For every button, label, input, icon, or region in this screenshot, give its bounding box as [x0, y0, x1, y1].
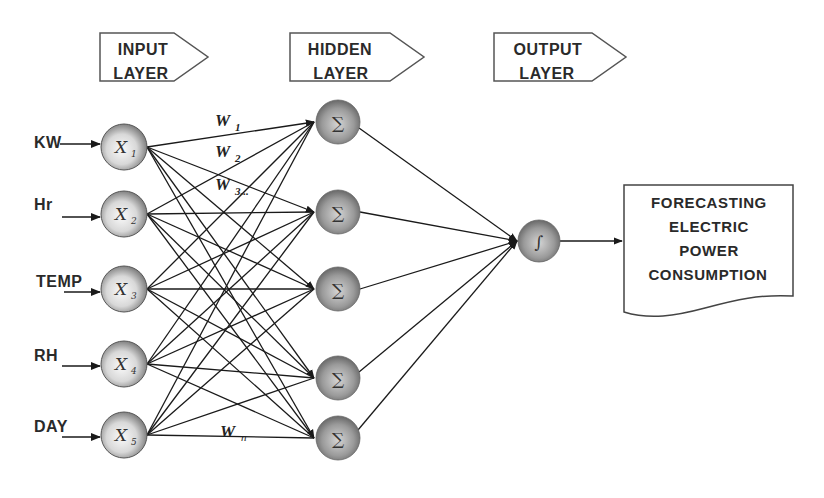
svg-text:1: 1 — [235, 121, 241, 133]
input-label-day: DAY — [34, 418, 68, 435]
banner-output-line1: OUTPUT — [514, 41, 583, 58]
input-labels: KW Hr TEMP RH DAY — [34, 134, 100, 437]
input-hidden-connections — [147, 122, 314, 438]
sigma-icon: ∑ — [332, 369, 344, 389]
svg-text:1: 1 — [131, 149, 137, 159]
output-node: ∫ — [518, 220, 560, 262]
input-nodes: X 1 X 2 X 3 X 4 X 5 — [101, 124, 147, 458]
input-node-x1: X 1 — [101, 124, 147, 170]
svg-text:3...: 3... — [234, 185, 249, 197]
svg-text:X: X — [113, 137, 128, 157]
input-node-x5: X 5 — [101, 412, 147, 458]
svg-text:2: 2 — [130, 216, 137, 226]
svg-text:X: X — [113, 425, 128, 445]
banner-input-layer: INPUT LAYER — [100, 33, 208, 82]
hidden-node-5: ∑ — [316, 416, 360, 460]
sigma-icon: ∑ — [332, 203, 344, 223]
input-label-rh: RH — [34, 347, 58, 364]
svg-text:X: X — [113, 279, 128, 299]
result-line-1: FORECASTING — [651, 194, 767, 211]
input-label-temp: TEMP — [36, 273, 82, 290]
input-label-hr: Hr — [34, 196, 53, 213]
input-node-x2: X 2 — [101, 191, 147, 237]
input-node-x3: X 3 — [101, 266, 147, 312]
input-label-kw: KW — [34, 134, 62, 151]
result-document-box: FORECASTING ELECTRIC POWER CONSUMPTION — [624, 185, 793, 316]
neural-network-diagram: INPUT LAYER HIDDEN LAYER OUTPUT LAYER — [0, 0, 824, 498]
svg-text:X: X — [113, 204, 128, 224]
banner-hidden-layer: HIDDEN LAYER — [290, 33, 424, 82]
svg-text:X: X — [113, 354, 128, 374]
input-node-x4: X 4 — [101, 341, 147, 387]
sigma-icon: ∑ — [332, 113, 344, 133]
hidden-nodes: ∑ ∑ ∑ ∑ ∑ — [316, 100, 360, 460]
svg-text:W: W — [215, 111, 232, 130]
svg-text:5: 5 — [131, 437, 137, 447]
hidden-node-4: ∑ — [316, 356, 360, 400]
weight-w1: W 1 — [215, 111, 241, 133]
result-line-4: CONSUMPTION — [648, 266, 767, 283]
banner-output-layer: OUTPUT LAYER — [494, 33, 626, 82]
svg-text:W: W — [220, 422, 237, 441]
svg-text:W: W — [215, 142, 232, 161]
sigma-icon: ∑ — [332, 429, 344, 449]
weight-wn: W n — [220, 422, 247, 443]
result-line-3: POWER — [679, 242, 739, 259]
banner-hidden-line2: LAYER — [313, 65, 368, 82]
svg-text:4: 4 — [130, 366, 137, 376]
banner-hidden-line1: HIDDEN — [308, 41, 372, 58]
svg-text:2: 2 — [234, 152, 241, 164]
banner-input-line1: INPUT — [118, 41, 169, 58]
hidden-node-3: ∑ — [316, 267, 360, 311]
integral-icon: ∫ — [535, 232, 544, 252]
result-line-2: ELECTRIC — [669, 218, 749, 235]
hidden-node-2: ∑ — [316, 190, 360, 234]
banner-output-line2: LAYER — [519, 65, 574, 82]
hidden-node-1: ∑ — [316, 100, 360, 144]
weight-w2: W 2 — [215, 142, 241, 164]
weight-w3: W 3... — [215, 175, 249, 197]
banner-input-line2: LAYER — [113, 65, 168, 82]
sigma-icon: ∑ — [332, 280, 344, 300]
svg-text:n: n — [241, 431, 247, 443]
svg-text:W: W — [215, 175, 232, 194]
hidden-output-connections — [358, 128, 517, 430]
svg-text:3: 3 — [131, 291, 137, 301]
